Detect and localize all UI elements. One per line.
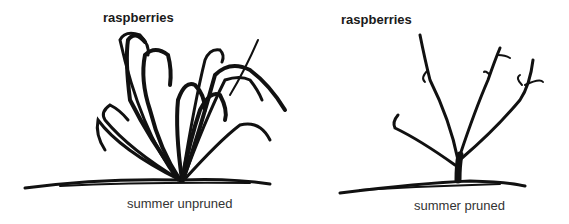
panel-title-unpruned: raspberries	[103, 10, 174, 25]
caption-pruned: summer pruned	[414, 198, 505, 213]
raspberry-illustrations	[0, 0, 569, 224]
pruned-bush-drawing	[340, 35, 543, 193]
caption-unpruned: summer unpruned	[127, 196, 233, 211]
panel-title-pruned: raspberries	[341, 12, 412, 27]
unpruned-bush-drawing	[25, 33, 285, 188]
